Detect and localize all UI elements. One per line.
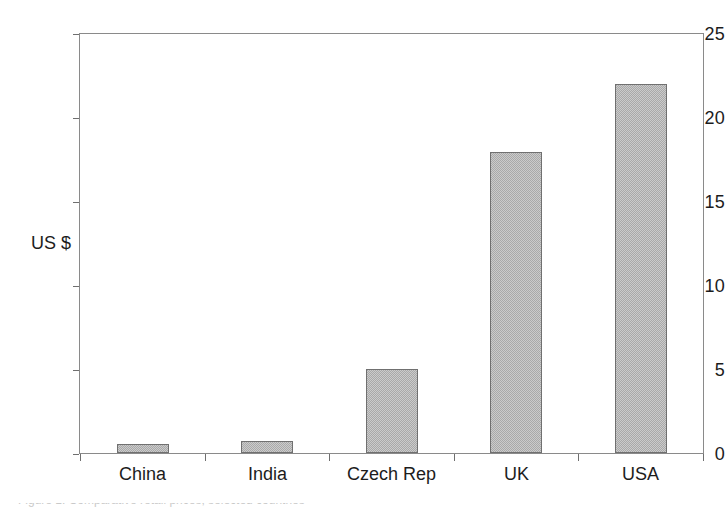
bar-uk — [490, 152, 542, 453]
x-axis-tick-mark-5 — [703, 454, 704, 461]
bar-czech-rep — [366, 369, 418, 453]
x-axis-label-india: India — [205, 464, 330, 484]
x-axis-tick-mark-1 — [205, 454, 206, 461]
plot-area — [79, 33, 704, 454]
figure-caption-text: Figure 1. Comparative retail prices, sel… — [18, 503, 398, 507]
x-axis-tick-mark-0 — [80, 454, 81, 461]
x-axis-label-uk: UK — [454, 464, 579, 484]
x-axis-label-usa: USA — [578, 464, 703, 484]
bar-china — [117, 444, 169, 453]
bar-chart-figure: 25 20 15 10 5 0 US $ China India Czech R… — [0, 0, 725, 515]
bar-india — [241, 441, 293, 453]
x-axis-tick-mark-3 — [454, 454, 455, 461]
x-axis-tick-mark-2 — [329, 454, 330, 461]
figure-caption-cropped: Figure 1. Comparative retail prices, sel… — [18, 503, 398, 515]
x-axis-label-czech-rep: Czech Rep — [329, 464, 454, 484]
y-axis-title: US $ — [18, 234, 71, 252]
bar-usa — [615, 84, 667, 453]
x-axis-label-china: China — [80, 464, 205, 484]
y-axis-tick-mark-0 — [73, 454, 79, 455]
x-axis-tick-mark-4 — [578, 454, 579, 461]
